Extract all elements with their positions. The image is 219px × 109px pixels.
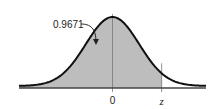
tick-label-0: 0 — [110, 95, 116, 106]
shaded-area — [19, 17, 162, 88]
area-annotation: 0.9671 — [53, 19, 84, 30]
tick-label-z: z — [159, 95, 165, 107]
normal-curve-chart: 0.9671 0 z — [0, 0, 219, 109]
